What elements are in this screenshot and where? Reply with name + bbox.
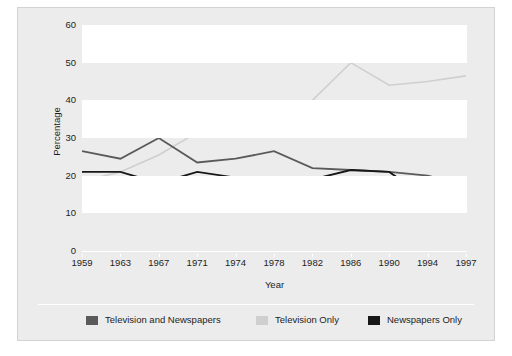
x-axis-tick-mark (274, 254, 275, 257)
x-axis-tick-mark (428, 254, 429, 257)
legend-swatch-icon (368, 316, 380, 325)
background-band (82, 100, 467, 138)
x-axis-title: Year (82, 279, 467, 290)
y-axis-tick-label: 60 (36, 20, 76, 30)
legend-item-label: Television and Newspapers (105, 315, 221, 325)
x-axis-tick-label: 1997 (443, 258, 489, 268)
y-axis-title: Percentage (51, 72, 62, 192)
legend-item-label: Newspapers Only (387, 315, 462, 325)
background-band (82, 25, 467, 63)
x-axis-tick-mark (159, 254, 160, 257)
legend-item-television-only[interactable]: Television Only (256, 313, 339, 327)
y-axis-tick-label: 0 (36, 246, 76, 256)
x-axis-tick-labels: 1959196319671971197419781982198619901994… (82, 258, 467, 274)
legend-item-television-and-newspapers[interactable]: Television and Newspapers (86, 313, 221, 327)
x-axis-tick-mark (197, 254, 198, 257)
x-axis-tick-mark (351, 254, 352, 257)
legend-swatch-icon (86, 316, 98, 325)
chart-figure: 0102030405060 Percentage 195919631967197… (17, 7, 495, 341)
x-axis-line (82, 251, 467, 252)
x-axis-tick-mark (82, 254, 83, 257)
y-axis-tick-label: 10 (36, 208, 76, 218)
x-axis-tick-mark (312, 254, 313, 257)
chart-legend: Television and Newspapers Television Onl… (38, 313, 474, 333)
legend-swatch-icon (256, 316, 268, 325)
legend-item-newspapers-only[interactable]: Newspapers Only (368, 313, 462, 327)
y-axis-tick-label: 50 (36, 58, 76, 68)
x-axis-tick-mark (389, 254, 390, 257)
legend-divider (38, 304, 474, 305)
x-axis-tick-mark (466, 254, 467, 257)
x-axis-tick-mark (120, 254, 121, 257)
background-band (82, 176, 467, 214)
x-axis-tick-mark (236, 254, 237, 257)
legend-item-label: Television Only (275, 315, 339, 325)
